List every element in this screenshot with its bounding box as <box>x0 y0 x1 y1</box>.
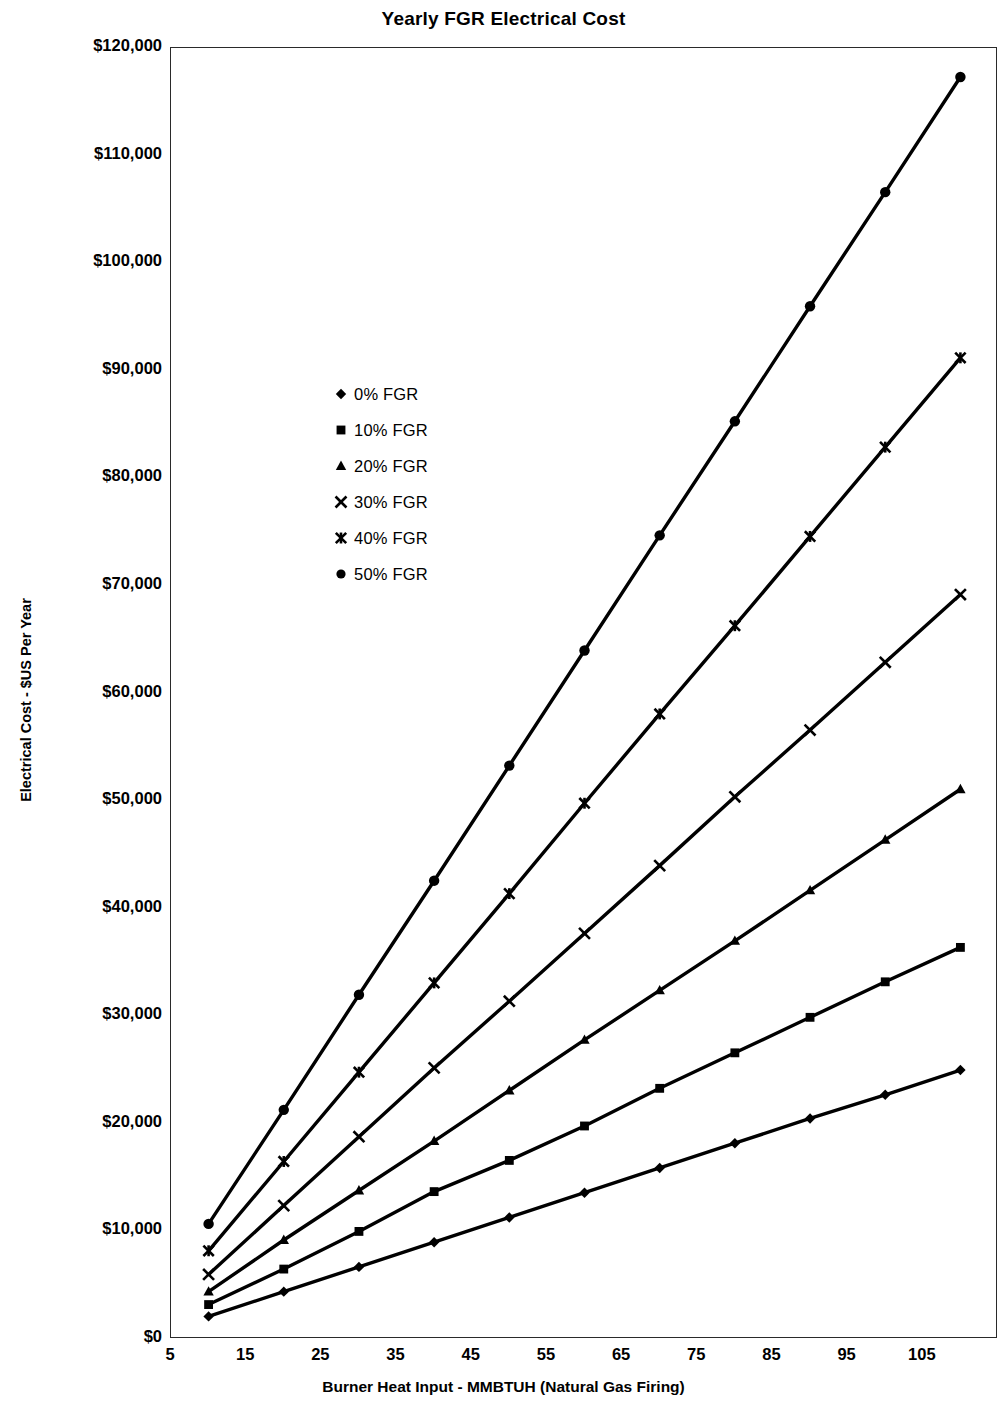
series-50--fgr <box>203 72 965 1229</box>
data-point-circle <box>279 1105 289 1115</box>
data-point-star <box>429 977 439 988</box>
data-point-diamond <box>805 1113 815 1123</box>
x-axis-tick-label: 15 <box>215 1345 275 1364</box>
y-axis-tick-label: $110,000 <box>42 144 162 163</box>
data-point-cross <box>654 860 665 871</box>
data-point-circle <box>955 72 965 82</box>
legend-item: 50% FGR <box>330 556 530 592</box>
legend-item-label: 50% FGR <box>354 565 428 584</box>
data-point-square <box>355 1227 364 1236</box>
data-point-diamond <box>579 1187 589 1197</box>
data-point-star <box>203 1245 213 1256</box>
legend-marker-diamond-icon <box>330 383 352 405</box>
data-point-square <box>580 1122 589 1131</box>
y-axis-tick-label: $60,000 <box>42 682 162 701</box>
data-point-circle <box>730 416 740 426</box>
y-axis-tick-label: $90,000 <box>42 359 162 378</box>
plot-series-svg <box>171 48 998 1339</box>
x-axis-tick-label: 35 <box>366 1345 426 1364</box>
data-point-cross <box>203 1269 214 1280</box>
data-point-star <box>504 888 514 899</box>
data-point-square <box>655 1084 664 1093</box>
y-axis-tick-label: $100,000 <box>42 251 162 270</box>
legend-item-label: 0% FGR <box>354 385 418 404</box>
x-axis-tick-label: 95 <box>817 1345 877 1364</box>
y-axis-tick-label: $10,000 <box>42 1219 162 1238</box>
data-point-diamond <box>654 1163 664 1173</box>
legend-item-label: 30% FGR <box>354 493 428 512</box>
data-point-cross <box>729 791 740 802</box>
series-20--fgr <box>203 784 965 1296</box>
data-point-circle <box>805 301 815 311</box>
data-point-cross <box>504 996 515 1007</box>
data-point-square <box>279 1265 288 1274</box>
y-axis-tick-label: $70,000 <box>42 574 162 593</box>
data-point-cross <box>336 497 347 508</box>
data-point-circle <box>336 569 345 578</box>
data-point-diamond <box>730 1138 740 1148</box>
x-axis-tick-label: 45 <box>441 1345 501 1364</box>
data-point-square <box>806 1013 815 1022</box>
data-point-star <box>654 708 664 719</box>
series-40--fgr <box>203 352 965 1256</box>
data-point-star <box>805 531 815 542</box>
data-point-circle <box>504 760 514 770</box>
legend-item: 10% FGR <box>330 412 530 448</box>
legend-item-label: 40% FGR <box>354 529 428 548</box>
data-point-square <box>204 1300 213 1309</box>
data-point-star <box>730 620 740 631</box>
x-axis-tick-label: 55 <box>516 1345 576 1364</box>
chart-legend: 0% FGR10% FGR20% FGR30% FGR40% FGR50% FG… <box>330 376 530 592</box>
data-point-cross <box>353 1131 364 1142</box>
x-axis-tick-label: 5 <box>140 1345 200 1364</box>
legend-marker-triangle-icon <box>330 455 352 477</box>
data-point-cross <box>579 928 590 939</box>
y-axis-tick-label: $50,000 <box>42 789 162 808</box>
data-point-star <box>880 442 890 453</box>
data-point-circle <box>429 875 439 885</box>
x-axis-tick-label: 75 <box>666 1345 726 1364</box>
legend-item-label: 10% FGR <box>354 421 428 440</box>
data-point-diamond <box>955 1065 965 1075</box>
y-axis-tick-label: $20,000 <box>42 1112 162 1131</box>
data-point-diamond <box>354 1262 364 1272</box>
data-point-square <box>505 1156 514 1165</box>
chart-title: Yearly FGR Electrical Cost <box>0 8 1007 30</box>
x-axis-tick-label: 85 <box>741 1345 801 1364</box>
legend-item: 20% FGR <box>330 448 530 484</box>
data-point-diamond <box>203 1311 213 1321</box>
legend-item: 30% FGR <box>330 484 530 520</box>
data-point-cross <box>805 725 816 736</box>
data-point-circle <box>654 530 664 540</box>
series-30--fgr <box>203 589 966 1280</box>
x-axis-tick-label: 65 <box>591 1345 651 1364</box>
legend-marker-circle-icon <box>330 563 352 585</box>
data-point-square <box>730 1048 739 1057</box>
legend-item-label: 20% FGR <box>354 457 428 476</box>
data-point-cross <box>278 1200 289 1211</box>
legend-marker-star-icon <box>330 527 352 549</box>
x-axis-tick-label: 25 <box>290 1345 350 1364</box>
data-point-cross <box>880 657 891 668</box>
data-point-square <box>956 943 965 952</box>
data-point-circle <box>880 187 890 197</box>
data-point-square <box>881 977 890 986</box>
plot-area <box>170 47 997 1338</box>
data-point-circle <box>579 645 589 655</box>
data-point-star <box>579 798 589 809</box>
y-axis-tick-label: $40,000 <box>42 897 162 916</box>
y-axis-tick-label: $80,000 <box>42 466 162 485</box>
y-axis-title: Electrical Cost - $US Per Year <box>18 540 34 860</box>
data-point-square <box>430 1187 439 1196</box>
x-axis-tick-label: 105 <box>892 1345 952 1364</box>
legend-marker-square-icon <box>330 419 352 441</box>
data-point-diamond <box>336 389 346 399</box>
data-point-star <box>955 352 965 363</box>
data-point-diamond <box>504 1212 514 1222</box>
data-point-star <box>354 1067 364 1078</box>
y-axis-tick-label: $120,000 <box>42 36 162 55</box>
data-point-cross <box>429 1062 440 1073</box>
data-point-star <box>279 1156 289 1167</box>
series-10--fgr <box>204 943 965 1309</box>
data-point-diamond <box>279 1286 289 1296</box>
